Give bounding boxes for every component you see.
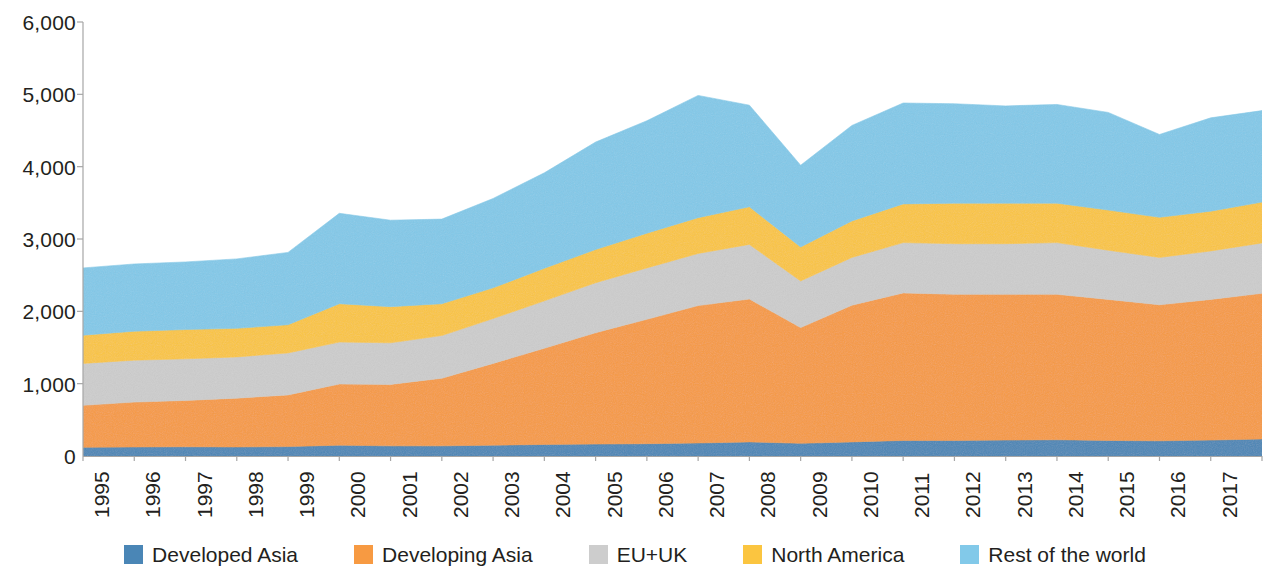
x-tick-label: 2006 [655,471,676,518]
x-tick-label: 2011 [911,473,932,518]
x-tick-label: 1999 [296,471,317,518]
legend-swatch-icon [960,545,979,564]
x-tick-label: 2001 [399,471,420,518]
x-tick-label: 2014 [1065,471,1086,518]
legend-item[interactable]: Rest of the world [960,544,1146,565]
x-tick-label: 2013 [1014,471,1035,518]
x-tick-label: 2000 [347,471,368,518]
legend-label: Developed Asia [152,544,298,565]
legend-item[interactable]: EU+UK [589,544,688,565]
x-tick-label: 1998 [245,471,266,518]
x-tick-label: 2015 [1116,471,1137,518]
x-tick-label: 2009 [809,471,830,518]
legend-item[interactable]: Developing Asia [354,544,533,565]
x-tick-label: 2017 [1219,471,1240,518]
legend-label: Rest of the world [988,544,1146,565]
x-tick-label: 1995 [91,471,112,518]
x-tick-label: 2002 [450,471,471,518]
x-tick-label: 2005 [604,471,625,518]
x-tick-label: 1997 [194,471,215,518]
legend-swatch-icon [743,545,762,564]
x-tick-label: 2003 [501,471,522,518]
x-tick-label: 2012 [962,471,983,518]
legend-swatch-icon [124,545,143,564]
x-tick-label: 2016 [1167,471,1188,518]
stacked-area-chart: 01,0002,0003,0004,0005,0006,000 19951996… [0,0,1270,574]
legend-item[interactable]: Developed Asia [124,544,298,565]
legend-label: North America [771,544,904,565]
x-tick-label: 2007 [706,471,727,518]
x-tick-label: 2004 [552,471,573,518]
legend-label: Developing Asia [382,544,533,565]
legend-item[interactable]: North America [743,544,904,565]
chart-legend: Developed AsiaDeveloping AsiaEU+UKNorth … [0,536,1270,572]
legend-label: EU+UK [617,544,688,565]
x-tick-label: 2008 [757,471,778,518]
x-tick-label: 2010 [860,471,881,518]
x-tick-label: 1996 [142,471,163,518]
legend-swatch-icon [589,545,608,564]
legend-swatch-icon [354,545,373,564]
x-axis-tick-labels: 1995199619971998199920002001200220032004… [0,0,1270,574]
